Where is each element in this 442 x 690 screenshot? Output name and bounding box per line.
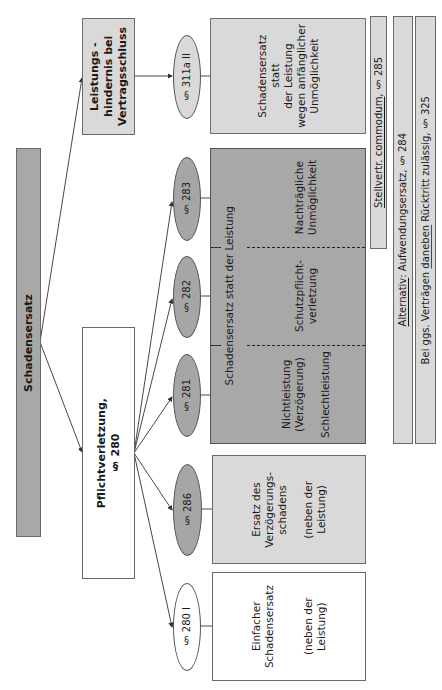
sidebar-aufwendungsersatz: Alternativ: Aufwendungsersatz, § 284 [393,16,413,444]
root-label: Schadensersatz [22,294,36,392]
ellipse-281: § 281 [173,354,201,437]
cell-schutzpflicht-label: Schutzpflicht- verletzung [293,260,319,332]
ellipse-280-label: § 280 I [181,607,193,646]
sidebar-alternativ-underlined: Alternativ [397,278,408,327]
cell-nichtleistung: Nichtleistung (Verzögerung) Schlechtleis… [247,345,365,443]
sidebar-alternativ-label: Alternativ: Aufwendungsersatz, § 284 [397,133,409,326]
sidebar-stellvertr-label: Stellvertr. commodum, § 285 [373,57,385,208]
ellipse-311a-label: § 311a II [181,53,193,101]
sidebar-stellvertr-underlined: Stellvertr. commodum [373,97,384,208]
ellipse-311a: § 311a II [173,35,201,119]
ellipse-286: § 286 [173,464,202,556]
statt-der-leistung-header: Schadensersatz statt der Leistung [211,149,247,443]
divider-stub [211,345,221,346]
ellipse-286-label: § 286 [182,493,194,526]
branch-pflichtverletzung: Pflichtverletzung, § 280 [82,327,135,579]
sidebar-stellvertr-commodum: Stellvertr. commodum, § 285 [370,16,387,249]
result-anfaengliche-label: Schadensersatz statt der Leistung wegen … [256,24,321,128]
ellipse-282-label: § 282 [181,280,193,313]
ellipse-282: § 282 [173,256,201,338]
result-verzoegerung-label: Ersatz des Verzögerungs- schadens (neben… [250,472,328,548]
cell-nachtraegliche-unmoeglichkeit: Nachträgliche Unmöglichkeit [247,149,365,247]
sidebar-ruecktritt: Bei ggs. Verträgen daneben Rücktritt zul… [415,16,436,444]
branch-leistungshindernis-label: Leistungs - hindernis bei Vertragsschlus… [88,27,130,126]
result-anfaengliche-unmoeglichkeit: Schadensersatz statt der Leistung wegen … [210,18,366,134]
sidebar-ggs-prefix: Bei ggs. Verträgen [420,268,431,364]
root-schadensersatz: Schadensersatz [16,148,41,537]
cell-nachtraeglich-label: Nachträgliche Unmöglichkeit [293,160,319,235]
result-statt-der-leistung: Schadensersatz statt der Leistung Nachtr… [210,148,366,444]
ellipse-283: § 283 [173,157,201,241]
cell-schutzpflichtverletzung: Schutzpflicht- verletzung [247,247,365,345]
sidebar-ggs-rest: Rücktritt zulässig, § 325 [420,96,431,225]
ellipse-283-label: § 283 [181,182,193,215]
sidebar-alternativ-rest: : Aufwendungsersatz, § 284 [397,133,408,278]
cell-nichtleistung-label: Nichtleistung (Verzögerung) Schlechtleis… [280,351,332,438]
result-einfacher-schadensersatz: Einfacher Schadensersatz (neben der Leis… [212,572,366,681]
branch-pflichtverletzung-label: Pflichtverletzung, § 280 [95,398,123,508]
branch-leistungshindernis: Leistungs - hindernis bei Vertragsschlus… [82,18,135,135]
result-einfach-label: Einfacher Schadensersatz (neben der Leis… [250,585,328,668]
statt-der-leistung-header-label: Schadensersatz statt der Leistung [223,206,236,385]
result-verzoegerungsschaden: Ersatz des Verzögerungs- schadens (neben… [212,455,366,564]
sidebar-ggs-label: Bei ggs. Verträgen daneben Rücktritt zul… [420,96,432,364]
sidebar-stellvertr-rest: , § 285 [373,57,384,97]
sidebar-ggs-underlined: daneben [420,225,431,269]
ellipse-281-label: § 281 [181,379,193,412]
ellipse-280: § 280 I [173,583,201,671]
divider-stub [211,247,221,248]
